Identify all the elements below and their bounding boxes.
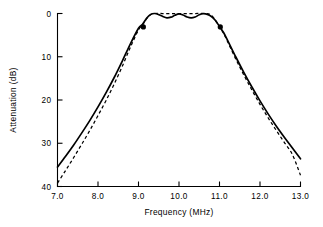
axes-frame bbox=[58, 14, 301, 187]
attenuation-vs-frequency-figure: 7.08.09.010.011.012.013.0 010203040 Freq… bbox=[0, 0, 323, 227]
y-axis-tick-labels: 010203040 bbox=[42, 10, 52, 192]
x-axis-tick-labels: 7.08.09.010.011.012.013.0 bbox=[51, 192, 309, 201]
y-tick-label: 40 bbox=[42, 183, 52, 192]
dashed-response-curve bbox=[58, 13, 301, 183]
x-tick-label: 11.0 bbox=[211, 192, 228, 201]
x-axis-title: Frequency (MHz) bbox=[144, 207, 213, 217]
upper-cutoff-marker bbox=[218, 24, 223, 29]
y-tick-label: 10 bbox=[42, 53, 52, 62]
chart-svg: 7.08.09.010.011.012.013.0 010203040 Freq… bbox=[0, 0, 323, 227]
y-tick-label: 20 bbox=[42, 96, 52, 105]
x-tick-label: 10.0 bbox=[170, 192, 188, 201]
x-axis-ticks bbox=[58, 182, 301, 187]
x-tick-label: 12.0 bbox=[251, 192, 269, 201]
x-tick-label: 9.0 bbox=[132, 192, 145, 201]
solid-response-curve bbox=[58, 13, 301, 167]
x-tick-label: 13.0 bbox=[292, 192, 310, 201]
y-tick-label: 30 bbox=[42, 139, 52, 148]
lower-cutoff-marker bbox=[141, 24, 146, 29]
y-axis-title: Attenuation (dB) bbox=[8, 67, 18, 132]
cutoff-markers bbox=[141, 24, 223, 29]
x-tick-label: 7.0 bbox=[51, 192, 64, 201]
y-tick-label: 0 bbox=[47, 10, 52, 19]
x-tick-label: 8.0 bbox=[92, 192, 105, 201]
